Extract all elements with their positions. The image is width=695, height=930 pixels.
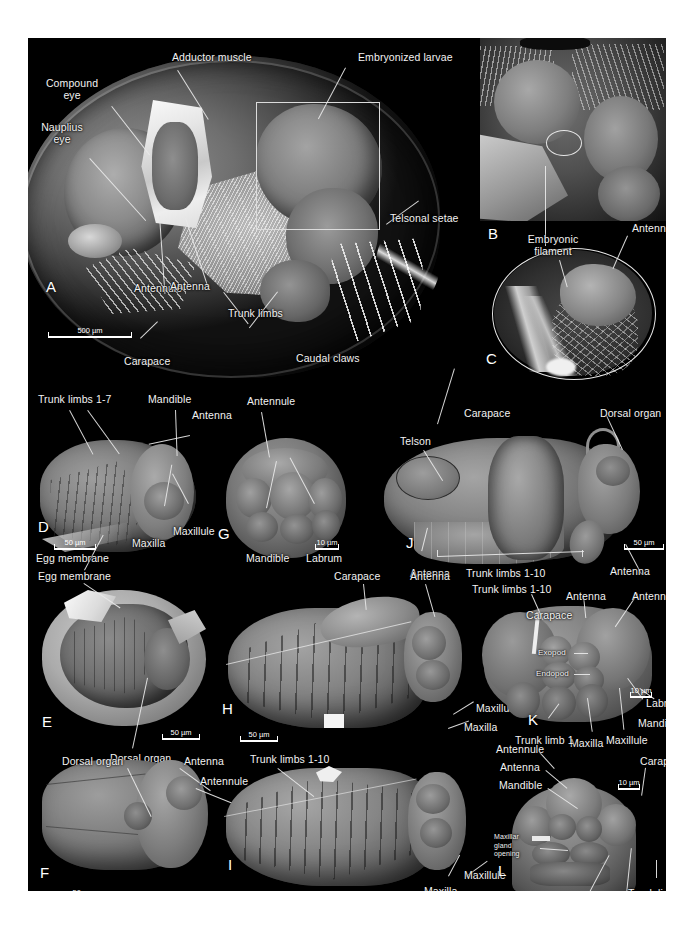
leader-trunk-limbs-j-tick1 bbox=[437, 550, 438, 557]
mandible-structure-l bbox=[548, 814, 576, 840]
label-maxilla-i: Maxilla bbox=[424, 886, 457, 891]
scale-bar-k: 10 µm bbox=[630, 686, 652, 698]
panel-c-ellipse-frame bbox=[492, 248, 656, 380]
panel-letter-k: K bbox=[528, 711, 538, 728]
label-dorsal-organ-f: Dorsal organ bbox=[62, 756, 123, 768]
detail-circle-b bbox=[546, 130, 582, 156]
scale-bar-a: 500 µm bbox=[48, 324, 132, 338]
label-adductor-muscle: Adductor muscle bbox=[172, 52, 252, 64]
label-telson-j: Telson bbox=[400, 436, 431, 448]
sem-figure-plate: Compound eye Nauplius eye Adductor muscl… bbox=[28, 38, 666, 891]
scale-bar-e: 50 µm bbox=[162, 728, 200, 740]
label-endopod-k: Endopod bbox=[536, 669, 569, 678]
label-carapace-l: Carapace bbox=[640, 756, 666, 768]
body-segment-j bbox=[488, 436, 564, 560]
label-antenna-f: Antenna bbox=[184, 756, 224, 768]
carapace-lobe-l-right bbox=[596, 804, 636, 846]
scale-bar-f: 50 µm bbox=[64, 888, 102, 891]
label-antenna-a: Antenna bbox=[170, 281, 210, 293]
label-mandible-g: Mandible bbox=[246, 553, 289, 565]
label-carapace-k: Carapace bbox=[526, 610, 572, 622]
label-antennule-g: Antennule bbox=[247, 396, 295, 408]
maxilla-structure-h bbox=[416, 660, 450, 690]
mandible-lobe-g2 bbox=[280, 514, 314, 544]
panel-letter-c: C bbox=[486, 350, 497, 367]
label-nauplius-eye: Nauplius eye bbox=[28, 122, 96, 145]
label-carapace-h: Carapace bbox=[334, 571, 380, 583]
panel-i bbox=[224, 750, 474, 891]
label-carapace-a: Carapace bbox=[124, 356, 170, 368]
label-labrum-k: Labrum bbox=[646, 698, 666, 710]
antenna-structure-l bbox=[576, 816, 602, 842]
panel-e bbox=[36, 580, 214, 734]
telson-structure bbox=[396, 456, 460, 500]
label-maxilla-k: Maxilla bbox=[570, 738, 603, 750]
panel-b bbox=[480, 38, 666, 221]
dorsal-organ-structure-f bbox=[124, 802, 152, 830]
label-antenna-k: Antenna bbox=[566, 591, 606, 603]
mandible-lobe-g1 bbox=[246, 512, 278, 542]
label-dorsal-organ-j: Dorsal organ bbox=[600, 408, 661, 420]
label-trunk-limbs-a: Trunk limbs bbox=[228, 308, 283, 320]
dark-shadow-b bbox=[520, 38, 590, 50]
panel-letter-g: G bbox=[218, 525, 230, 542]
label-antenna-l: Antenna bbox=[500, 762, 540, 774]
leader-endopod-k bbox=[574, 674, 590, 675]
label-exopod-k: Exopod bbox=[538, 648, 566, 657]
panel-letter-f: F bbox=[40, 864, 49, 881]
panel-letter-j: J bbox=[406, 534, 414, 551]
label-embryonic-filament: Embryonic filament bbox=[522, 234, 584, 257]
panel-letter-b: B bbox=[488, 225, 498, 242]
leader-trunk-limbs-j-tick2 bbox=[582, 550, 583, 557]
panel-letter-a: A bbox=[46, 278, 56, 295]
label-antennule-c: Antennule bbox=[632, 223, 666, 235]
inset-region-box bbox=[256, 102, 380, 230]
panel-c bbox=[480, 246, 666, 386]
mandible-lobe-g3 bbox=[312, 510, 340, 540]
antenna-structure-h bbox=[412, 626, 446, 660]
panel-letter-l: L bbox=[498, 862, 506, 879]
leader-exopod-k bbox=[574, 653, 588, 654]
adductor-muscle-core bbox=[152, 122, 198, 210]
label-antenna-h: Antenna bbox=[410, 571, 450, 583]
dorsal-organ-structure-j bbox=[596, 456, 630, 486]
panel-k bbox=[480, 590, 666, 738]
label-antenna-j2: Antenna bbox=[610, 566, 650, 578]
label-antennule-l: Antennule bbox=[496, 744, 544, 756]
label-maxillule-k: Maxillule bbox=[606, 735, 648, 747]
panel-letter-e: E bbox=[42, 713, 52, 730]
scale-bar-l: 10 µm bbox=[618, 778, 640, 790]
label-compound-eye: Compound eye bbox=[36, 78, 108, 101]
label-labrum-g: Labrum bbox=[306, 553, 342, 565]
label-maxilla-d: Maxilla bbox=[132, 538, 165, 550]
maxillar-gland-opening-structure bbox=[532, 836, 550, 841]
panel-letter-i: I bbox=[228, 856, 232, 873]
scale-bar-i: 50 µm bbox=[240, 890, 278, 891]
scale-bar-d: 50 µm bbox=[54, 538, 96, 550]
label-mandible-d: Mandible bbox=[148, 394, 191, 406]
maxillule-structure-k bbox=[576, 684, 608, 718]
label-egg-membrane-d: Egg membrane bbox=[36, 553, 109, 565]
label-telsonal-setae: Telsonal setae bbox=[390, 213, 459, 225]
maxilla-structure-i bbox=[420, 818, 452, 848]
label-embryonized-larvae: Embryonized larvae bbox=[358, 52, 453, 64]
leader-trunk-limb-1-l bbox=[656, 860, 657, 878]
larva-b3 bbox=[598, 166, 660, 221]
label-antennule-k: Antennule bbox=[632, 591, 666, 603]
label-antenna-d: Antenna bbox=[192, 410, 232, 422]
label-mandible-k: Mandible bbox=[638, 718, 666, 730]
panel-letter-d: D bbox=[38, 518, 49, 535]
label-trunk-limb-1-l: Trunk limb 1 bbox=[628, 888, 666, 891]
scale-bar-g: 10 µm bbox=[315, 538, 339, 550]
label-maxillule-d: Maxillule bbox=[173, 526, 215, 538]
scale-bar-h: 50 µm bbox=[240, 730, 278, 742]
label-trunk-limbs-1-10-j: Trunk limbs 1-10 bbox=[466, 568, 545, 580]
antenna-structure-i bbox=[416, 784, 450, 814]
telsonal-setae-structure bbox=[376, 222, 440, 306]
label-carapace-j: Carapace bbox=[464, 408, 510, 420]
label-maxillar-gland-opening: Maxillar gland opening bbox=[494, 833, 520, 859]
scale-bar-j: 50 µm bbox=[624, 538, 664, 550]
panel-letter-h: H bbox=[222, 700, 233, 717]
nauplius-eye-structure bbox=[68, 224, 122, 258]
label-caudal-claws: Caudal claws bbox=[296, 353, 360, 365]
